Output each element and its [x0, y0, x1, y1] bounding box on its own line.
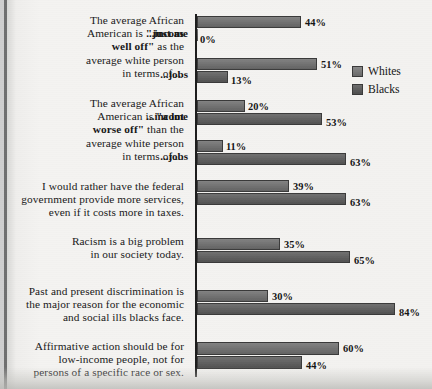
bar-value-label: 39%: [293, 182, 314, 192]
label-line: Affirmative action should be for: [35, 340, 184, 352]
bar-value-label: 30%: [272, 292, 293, 302]
bar-value-label: 44%: [306, 361, 327, 371]
bar-blacks: [197, 153, 346, 165]
label-line: The average African: [90, 14, 184, 26]
label-line: and social ills blacks face.: [63, 311, 184, 323]
bar-blacks: [197, 251, 350, 263]
label-line: persons of a specific race or sex.: [33, 366, 184, 378]
group-label-past-present-discrimination: Past and present discrimination is the m…: [18, 285, 184, 325]
bar-blacks: [197, 71, 228, 83]
bar-whites: [197, 100, 245, 112]
bar-value-label: 44%: [305, 18, 326, 28]
bar-value-label: 63%: [350, 158, 371, 168]
bar-whites: [197, 180, 289, 192]
bar-value-label: 60%: [343, 344, 364, 354]
bar-value-label: 35%: [284, 240, 305, 250]
sub-label-jobs-g2: ...jobs: [120, 150, 188, 162]
bar-blacks: [197, 356, 302, 369]
bar-blacks: [197, 113, 322, 125]
bar-blacks: [197, 193, 346, 205]
label-emphasis: well off": [112, 40, 155, 52]
label-line: low-income people, not for: [58, 353, 184, 365]
legend-label-blacks: Blacks: [368, 83, 400, 96]
group-label-racism-big-problem: Racism is a big problem in our society t…: [18, 235, 184, 261]
bar-blacks: [197, 29, 198, 41]
legend-label-whites: Whites: [368, 65, 401, 78]
bar-value-label: 20%: [248, 102, 269, 112]
label-line: in our society today.: [90, 248, 184, 260]
label-line: as the: [154, 40, 184, 52]
bar-value-label: 65%: [354, 256, 375, 266]
blacks-swatch-icon: [352, 84, 363, 95]
sub-label-income-g1: ...income: [120, 27, 188, 39]
bar-whites: [197, 290, 268, 302]
group-label-affirmative-action: Affirmative action should be for low-inc…: [18, 340, 184, 380]
bar-value-label: 0%: [200, 35, 216, 45]
bar-whites: [197, 140, 223, 152]
bar-value-label: 13%: [231, 76, 252, 86]
label-line: average white person: [86, 54, 184, 66]
whites-swatch-icon: [352, 66, 363, 77]
bar-whites: [197, 342, 339, 355]
legend-item-blacks: Blacks: [352, 83, 428, 96]
group-label-federal-services: I would rather have the federal governme…: [18, 180, 184, 220]
bar-value-label: 84%: [399, 308, 420, 318]
sub-label-income-g2: ...income: [120, 110, 188, 122]
label-line: even if it costs more in taxes.: [49, 206, 184, 218]
label-line: than the: [144, 123, 184, 135]
bar-value-label: 53%: [326, 118, 347, 128]
label-line: I would rather have the federal: [42, 180, 184, 192]
bar-blacks: [197, 303, 395, 315]
bar-whites: [197, 238, 280, 250]
label-line: government provide more services,: [21, 193, 184, 205]
horizontal-bar-chart: The average African American is "just as…: [0, 0, 432, 389]
bar-value-label: 11%: [226, 142, 246, 152]
bar-value-label: 51%: [321, 60, 342, 70]
legend-item-whites: Whites: [352, 65, 428, 78]
chart-legend: Whites Blacks: [352, 65, 428, 101]
bar-whites: [197, 58, 317, 70]
sub-label-jobs-g1: ...jobs: [120, 68, 188, 80]
bar-value-label: 63%: [350, 198, 371, 208]
label-line: the major reason for the economic: [26, 298, 184, 310]
label-line: Racism is a big problem: [72, 235, 184, 247]
label-line: average white person: [86, 137, 184, 149]
label-line: Past and present discrimination is: [29, 285, 184, 297]
label-emphasis: worse off": [93, 123, 145, 135]
bar-whites: [197, 16, 301, 28]
label-line: The average African: [90, 97, 184, 109]
